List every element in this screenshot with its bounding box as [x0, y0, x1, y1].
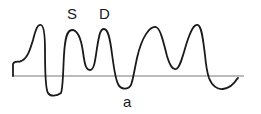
- d-wave-label: D: [99, 6, 110, 21]
- s-wave-label: S: [67, 6, 77, 21]
- waveform-trace: [13, 25, 238, 96]
- a-wave-label: a: [123, 94, 131, 109]
